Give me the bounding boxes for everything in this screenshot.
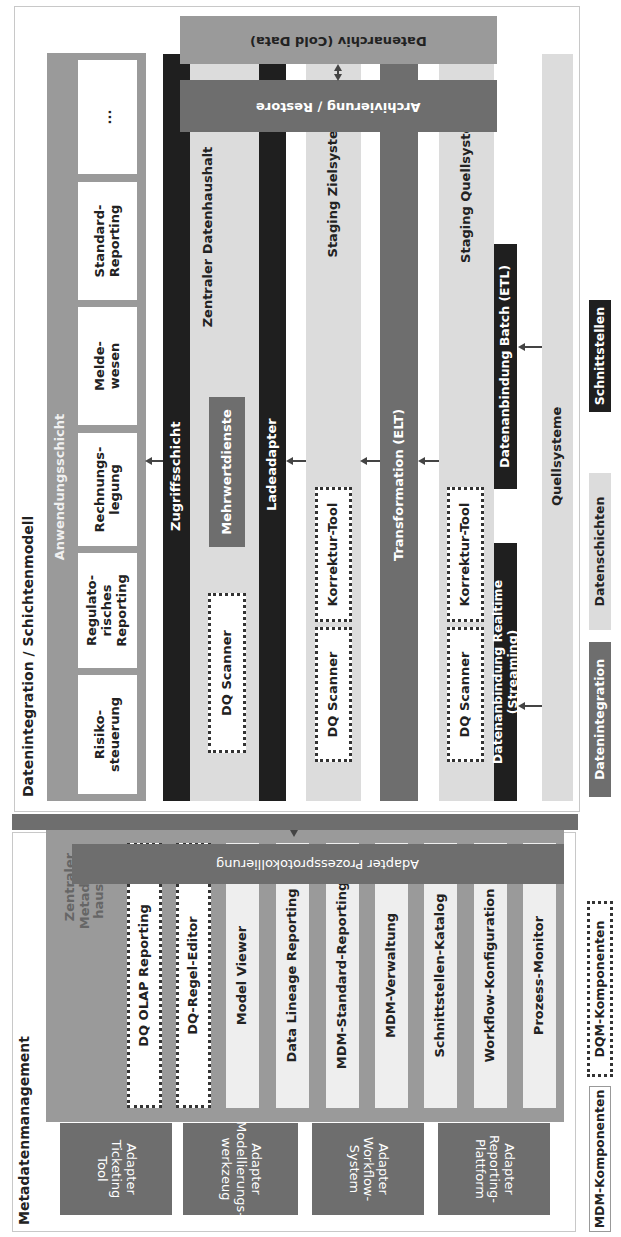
arrow-head-icon xyxy=(145,457,152,465)
legend-interfaces: Schnittstellen xyxy=(589,300,611,412)
arrow-head-icon xyxy=(518,343,525,351)
arrow-head-icon xyxy=(518,702,525,710)
adapter-reporting-platform: Adapter Reporting- Plattform xyxy=(438,1123,550,1215)
app-item-accounting: Rechnungs- legung xyxy=(78,433,137,546)
access-layer: Zugriffsschicht xyxy=(163,54,190,801)
app-item-risk-management: Risiko- steuerung xyxy=(78,675,137,794)
metadata-management-title: Metadatenmanagement xyxy=(16,1036,32,1225)
data-connection-batch-etl: Datenanbindung Batch (ETL) xyxy=(494,244,517,489)
transformation-elt: Transformation (ELT) xyxy=(380,54,418,801)
adapter-process-logging: Adapter Prozessprotokollierung xyxy=(72,844,564,884)
app-item-reporting-obligations-ext: Melde- wesen xyxy=(78,307,137,425)
adapter-ticketing-tool: Adapter Ticketing Tool xyxy=(60,1123,172,1215)
diagram-canvas: Metadatenmanagement Adapter Ticketing To… xyxy=(0,0,621,1237)
arrow-head-icon xyxy=(418,457,425,465)
adapter-workflow-system: Adapter Workflow- System xyxy=(312,1123,424,1215)
correction-tool-source: Korrektur-Tool xyxy=(447,487,484,622)
value-added-services: Mehrwertdienste xyxy=(209,397,245,547)
connector-band xyxy=(12,814,578,830)
app-item-more-ext: ... xyxy=(78,60,137,174)
legend-data-integration: Datenintegration xyxy=(589,642,611,797)
adapter-modeling-tool: Adapter Modellierungs- werkzeug xyxy=(183,1123,298,1215)
app-item-regulatory-reporting: Regulato- risches Reporting xyxy=(78,553,137,668)
dq-scanner-central: DQ Scanner xyxy=(208,593,246,753)
data-integration-title: Datenintegration / Schichtenmodell xyxy=(20,516,36,797)
dq-scanner-target: DQ Scanner xyxy=(315,627,352,762)
legend-mdm-components: MDM-Komponenten xyxy=(589,1086,611,1232)
arrow-head-icon xyxy=(334,74,342,81)
arrow-head-icon xyxy=(334,64,342,71)
arrow-head-icon xyxy=(286,457,293,465)
dq-scanner-source: DQ Scanner xyxy=(447,627,484,762)
archiving-restore-box: Archivierung / Restore xyxy=(180,80,497,132)
legend-data-layers: Datenschichten xyxy=(589,473,611,630)
source-systems: Quellsysteme xyxy=(542,54,573,801)
arrow-head-icon xyxy=(360,457,367,465)
load-adapter: Ladeadapter xyxy=(259,54,286,801)
application-layer-label: Anwendungsschicht xyxy=(48,377,72,597)
correction-tool-target: Korrektur-Tool xyxy=(315,487,352,622)
connector-arrow-icon xyxy=(290,830,298,837)
app-item-standard-reporting-ext: Standard- Reporting xyxy=(78,182,137,300)
data-connection-realtime-streaming: Datenanbindung Realtime (Streaming) xyxy=(494,543,517,801)
data-archive-cold-data: Datenarchiv (Cold Data) xyxy=(180,16,497,64)
legend-dqm-components: DQM-Komponenten xyxy=(587,901,613,1077)
